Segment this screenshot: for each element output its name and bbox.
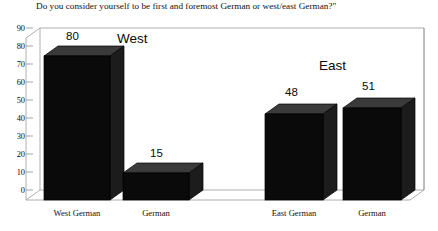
value-label-german-west: 15: [150, 147, 163, 159]
x-axis-labels: West German German East German German: [0, 206, 438, 222]
annotation-east: East: [319, 58, 346, 73]
bar-side-face: [323, 104, 337, 200]
bar-german-east[interactable]: [343, 14, 401, 200]
bar-side-face: [401, 98, 415, 200]
bar-side-face: [110, 46, 124, 200]
bar-front-face: [343, 108, 401, 200]
chart-container: Do you consider yourself to be first and…: [0, 0, 438, 231]
x-tick-label-east-german: East German: [272, 208, 317, 218]
x-tick-label-german-east: German: [358, 208, 386, 218]
chart-title: Do you consider yourself to be first and…: [36, 1, 336, 12]
bars-layer: 80 15 48 51 West East: [0, 14, 438, 204]
value-label-west-german: 80: [66, 30, 79, 42]
bar-front-face: [265, 114, 323, 200]
bar-front-face: [123, 173, 189, 200]
x-tick-label-west-german: West German: [54, 208, 101, 218]
bar-front-face: [44, 56, 110, 200]
x-tick-label-german-west: German: [142, 208, 170, 218]
annotation-west: West: [117, 31, 148, 46]
value-label-german-east: 51: [362, 80, 375, 92]
value-label-east-german: 48: [285, 86, 298, 98]
bar-east-german[interactable]: [265, 14, 323, 200]
